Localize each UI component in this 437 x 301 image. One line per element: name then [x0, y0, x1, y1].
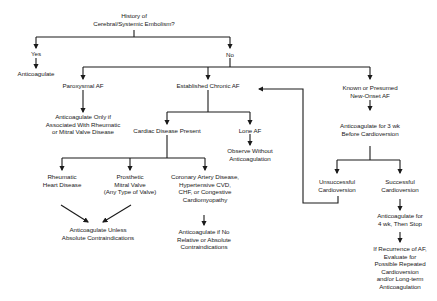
node-unsuccessful-cardioversion: Unsuccessful Cardioversion: [318, 178, 356, 193]
node-text: Hypertensive CVD,: [171, 181, 239, 189]
node-yes-anticoagulate: Anticoagulate: [18, 70, 55, 78]
node-established-chronic-af: Established Chronic AF: [176, 82, 239, 90]
node-rheumatic-heart-disease: Rheumatic Heart Disease: [43, 173, 82, 188]
node-text: History of: [93, 12, 175, 20]
node-text: Prosthetic: [104, 173, 156, 181]
node-text: Cardioversion: [318, 186, 356, 194]
node-text: Unsuccessful: [318, 178, 356, 186]
node-text: Anticoagulate Unless: [62, 226, 134, 234]
node-text: Cardiomyopathy: [171, 196, 239, 204]
node-text: Cerebral/Systemic Embolism?: [93, 20, 175, 28]
node-text: (Any Type of Valve): [104, 188, 156, 196]
node-text: Cardioversion: [381, 186, 419, 194]
node-text: Anticoagulate if No: [177, 228, 231, 236]
node-text: or Mitral Valve Disease: [46, 128, 120, 136]
node-text: If Recurrence of AF,: [373, 245, 426, 253]
node-text: Anticoagulate Only if: [46, 113, 120, 121]
node-text: Rheumatic: [43, 173, 82, 181]
node-text: Relative or Absolute: [177, 236, 231, 244]
node-text: Anticoagulate for: [377, 212, 423, 220]
node-new-onset-af: Known or Presumed New-Onset AF: [342, 84, 397, 99]
node-text: Associated With Rheumatic: [46, 121, 120, 129]
node-text: Coronary Artery Disease,: [171, 173, 239, 181]
node-new-onset-action: Anticoagulate for 3 wk Before Cardiovers…: [340, 122, 400, 137]
node-text: Contraindications: [177, 243, 231, 251]
node-text: Mitral Valve: [104, 181, 156, 189]
node-text: Lone AF: [239, 127, 262, 135]
node-text: Established Chronic AF: [176, 82, 239, 90]
node-text: and/or Long-term: [373, 275, 426, 283]
node-lone-af-action: Observe Without Anticoagulation: [227, 147, 272, 162]
node-cardiac-disease-present: Cardiac Disease Present: [133, 127, 200, 135]
node-text: CHF, or Congestive: [171, 188, 239, 196]
node-successful-action: Anticoagulate for 4 wk, Then Stop: [377, 212, 423, 227]
node-cad-action: Anticoagulate if No Relative or Absolute…: [177, 228, 231, 251]
node-text: Successful: [381, 178, 419, 186]
node-text: Before Cardioversion: [340, 130, 400, 138]
flowchart-connectors: [0, 0, 437, 301]
node-text: Absolute Contraindications: [62, 234, 134, 242]
node-text: Paroxysmal AF: [63, 82, 104, 90]
node-coronary-artery-disease: Coronary Artery Disease, Hypertensive CV…: [171, 173, 239, 203]
node-recurrence-action: If Recurrence of AF, Evaluate for Possib…: [373, 245, 426, 291]
node-text: Anticoagulate: [18, 70, 55, 78]
node-embolism-history-question: History of Cerebral/Systemic Embolism?: [93, 12, 175, 27]
node-valve-action: Anticoagulate Unless Absolute Contraindi…: [62, 226, 134, 241]
node-text: Heart Disease: [43, 181, 82, 189]
node-text: Anticoagulate for 3 wk: [340, 122, 400, 130]
node-text: Evaluate for: [373, 253, 426, 261]
node-text: Possible Repeated: [373, 260, 426, 268]
node-lone-af: Lone AF: [239, 127, 262, 135]
node-text: Anticoagulation: [373, 283, 426, 291]
node-text: Cardiac Disease Present: [133, 127, 200, 135]
node-text: Anticoagulation: [227, 155, 272, 163]
node-paroxysmal-action: Anticoagulate Only if Associated With Rh…: [46, 113, 120, 136]
node-successful-cardioversion: Successful Cardioversion: [381, 178, 419, 193]
node-text: Known or Presumed: [342, 84, 397, 92]
node-prosthetic-mitral-valve: Prosthetic Mitral Valve (Any Type of Val…: [104, 173, 156, 196]
node-text: Observe Without: [227, 147, 272, 155]
node-text: Yes: [31, 50, 41, 58]
node-no: No: [226, 51, 234, 59]
node-text: 4 wk, Then Stop: [377, 220, 423, 228]
node-yes: Yes: [31, 50, 41, 58]
node-paroxysmal-af: Paroxysmal AF: [63, 82, 104, 90]
node-text: Cardioversion: [373, 268, 426, 276]
node-text: New-Onset AF: [342, 92, 397, 100]
af-anticoagulation-flowchart: History of Cerebral/Systemic Embolism? Y…: [0, 0, 437, 301]
node-text: No: [226, 51, 234, 59]
